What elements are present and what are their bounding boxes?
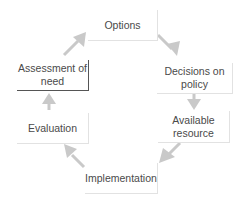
- node-resource-line2: resource: [173, 127, 214, 140]
- node-implementation: Implementation: [85, 163, 158, 194]
- node-available-resource: Available resource: [158, 111, 230, 143]
- arrow-assessment-to-options: [64, 32, 86, 55]
- node-assessment-line2: need: [41, 75, 64, 88]
- arrow-resource-to-implementation: [159, 143, 180, 163]
- node-evaluation: Evaluation: [17, 113, 89, 144]
- node-evaluation-label: Evaluation: [28, 122, 77, 135]
- arrow-evaluation-to-assessment: [42, 93, 56, 110]
- node-decisions-line2: policy: [181, 78, 208, 91]
- node-implementation-label: Implementation: [85, 172, 157, 185]
- arrow-implementation-to-evaluation: [64, 144, 84, 167]
- node-decisions-on-policy: Decisions on policy: [157, 63, 233, 94]
- node-options: Options: [88, 10, 158, 41]
- node-assessment-line1: Assessment of: [18, 62, 87, 75]
- arrow-options-to-decisions: [158, 35, 180, 56]
- node-options-label: Options: [104, 19, 140, 32]
- arrow-decisions-to-resource: [187, 94, 201, 110]
- node-resource-line1: Available: [172, 114, 214, 127]
- node-assessment-of-need: Assessment of need: [17, 60, 89, 91]
- node-decisions-line1: Decisions on: [164, 65, 224, 78]
